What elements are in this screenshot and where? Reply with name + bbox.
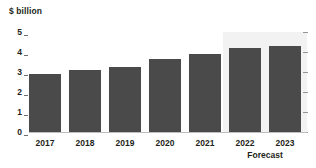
y-axis-tick-mark xyxy=(24,95,28,96)
plot-area: 543210 2017201820192020202120222023 Fore… xyxy=(0,0,316,168)
x-axis-label-2021: 2021 xyxy=(189,139,221,148)
x-axis-label-2023: 2023 xyxy=(269,139,301,148)
bar-2018 xyxy=(69,70,101,132)
y-axis-tick-label: 1 xyxy=(8,108,22,117)
x-axis-line xyxy=(29,132,307,133)
y-axis-tick-label: 2 xyxy=(8,88,22,97)
x-axis-label-2022: 2022 xyxy=(229,139,261,148)
bar-2022 xyxy=(229,48,261,132)
bar-chart: $ billion 543210 20172018201920202021202… xyxy=(0,0,316,168)
bar-2017 xyxy=(29,74,61,132)
x-axis-label-2017: 2017 xyxy=(29,139,61,148)
bar-2019 xyxy=(109,67,141,132)
bar-2023 xyxy=(269,46,301,132)
y-axis-tick-mark xyxy=(24,115,28,116)
right-axis-tick-mark xyxy=(303,72,308,73)
x-axis-label-2019: 2019 xyxy=(109,139,141,148)
x-axis-label-2018: 2018 xyxy=(69,139,101,148)
right-axis-tick-mark xyxy=(303,112,308,113)
right-axis-tick-mark xyxy=(303,32,308,33)
bar-2021 xyxy=(189,54,221,132)
x-axis-label-2020: 2020 xyxy=(149,139,181,148)
y-axis-tick-mark xyxy=(24,75,28,76)
y-axis-tick-mark xyxy=(24,55,28,56)
forecast-label: Forecast xyxy=(229,151,301,160)
y-axis-tick-mark xyxy=(24,135,28,136)
y-axis-tick-label: 0 xyxy=(8,128,22,137)
y-axis-tick-label: 5 xyxy=(8,28,22,37)
right-axis-tick-mark xyxy=(303,92,308,93)
y-axis-tick-mark xyxy=(24,35,28,36)
y-axis-tick-label: 3 xyxy=(8,68,22,77)
bar-2020 xyxy=(149,59,181,132)
right-axis-tick-mark xyxy=(303,52,308,53)
y-axis-tick-label: 4 xyxy=(8,48,22,57)
